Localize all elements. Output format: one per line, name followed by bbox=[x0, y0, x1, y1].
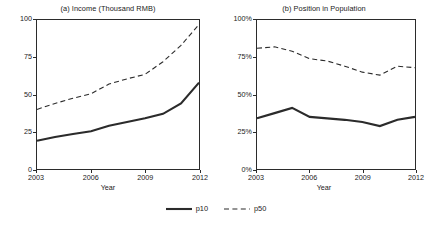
panel-b-plot-area bbox=[256, 19, 416, 170]
panel-a-ytick-label: 25 bbox=[24, 129, 32, 136]
panel-b-xtick-label: 2006 bbox=[301, 174, 317, 181]
panel-b-x-axis-label: Year bbox=[216, 183, 432, 192]
panel-a-xtick-label: 2003 bbox=[28, 174, 44, 181]
panel-b-series-p10-path bbox=[257, 108, 415, 126]
legend-label-p10: p10 bbox=[196, 205, 208, 212]
panel-a-ytick-label: 50 bbox=[24, 91, 32, 98]
panel-a-x-axis-ticks: 2003200620092012 bbox=[36, 170, 200, 184]
panel-b-x-axis-ticks: 2003200620092012 bbox=[256, 170, 416, 184]
panel-a-x-axis-label: Year bbox=[0, 183, 216, 192]
panel-a-series-p50-path bbox=[37, 24, 199, 109]
panel-b-ytick-label: 25% bbox=[238, 129, 252, 136]
panel-b-xtick-label: 2003 bbox=[248, 174, 264, 181]
dashed-line-icon bbox=[224, 205, 250, 213]
panel-b-series-p50-path bbox=[257, 47, 415, 75]
panel-b-ytick-label: 100% bbox=[234, 15, 252, 22]
solid-line-icon bbox=[166, 205, 192, 213]
legend-label-p50: p50 bbox=[254, 205, 266, 212]
panel-a-series-p10-path bbox=[37, 83, 199, 141]
panel-a-title: (a) Income (Thousand RMB) bbox=[0, 4, 216, 13]
panel-b-ytick-label: 75% bbox=[238, 53, 252, 60]
panel-a-xtick-label: 2012 bbox=[192, 174, 208, 181]
panel-a-plot-area bbox=[36, 19, 200, 170]
panel-b-ytick-label: 50% bbox=[238, 91, 252, 98]
panel-a-xtick-label: 2006 bbox=[83, 174, 99, 181]
panel-a-y-axis-labels: 0255075100 bbox=[0, 19, 32, 170]
legend-entry-p50: p50 bbox=[224, 205, 266, 213]
panel-b-series-svg bbox=[257, 20, 415, 169]
panel-b-y-axis-labels: 0%25%50%75%100% bbox=[216, 19, 252, 170]
chart-panel-b: (b) Position in Population 0%25%50%75%10… bbox=[216, 0, 432, 196]
panel-a-xtick-label: 2009 bbox=[137, 174, 153, 181]
panel-b-title: (b) Position in Population bbox=[216, 4, 432, 13]
chart-panel-a: (a) Income (Thousand RMB) 0255075100 200… bbox=[0, 0, 216, 196]
panel-b-xtick-label: 2012 bbox=[408, 174, 424, 181]
panel-a-series-svg bbox=[37, 20, 199, 169]
figure-canvas: (a) Income (Thousand RMB) 0255075100 200… bbox=[0, 0, 432, 229]
chart-legend: p10 p50 bbox=[0, 200, 432, 218]
panel-a-ytick-label: 100 bbox=[20, 15, 32, 22]
panel-a-ytick-label: 75 bbox=[24, 53, 32, 60]
panel-b-xtick-label: 2009 bbox=[355, 174, 371, 181]
legend-entry-p10: p10 bbox=[166, 205, 208, 213]
